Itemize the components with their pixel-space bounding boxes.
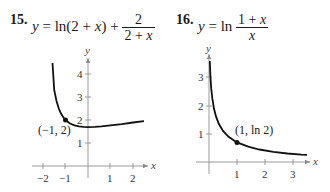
x-tick-label: 1 bbox=[107, 172, 113, 184]
y-tick-label: 3 bbox=[77, 91, 83, 103]
point-label: (1, ln 2) bbox=[235, 123, 273, 137]
x-tick-label: 1 bbox=[234, 168, 240, 180]
point-marker bbox=[235, 140, 240, 145]
y-tick-label: 4 bbox=[77, 68, 83, 80]
point-marker bbox=[63, 118, 68, 123]
y-tick-label: 2 bbox=[198, 100, 204, 112]
x-tick-label: −1 bbox=[59, 172, 71, 184]
chart-16: x y 1 2 3 1 2 3 (1, ln 2) bbox=[196, 42, 318, 180]
y-axis-label: y bbox=[205, 42, 211, 54]
graphs: x y −2 −1 1 2 1 2 3 4 (−1, 2) x y bbox=[0, 0, 330, 192]
y-tick-label: 2 bbox=[77, 114, 83, 126]
curve-15 bbox=[53, 63, 145, 127]
x-axis-label: x bbox=[150, 159, 156, 171]
curve-16 bbox=[210, 61, 307, 155]
x-tick-label: 2 bbox=[262, 168, 268, 180]
y-tick-label: 1 bbox=[198, 128, 204, 140]
point-label: (−1, 2) bbox=[38, 123, 71, 137]
x-tick-label: 2 bbox=[130, 172, 136, 184]
x-tick-label: −2 bbox=[37, 172, 49, 184]
chart-15: x y −2 −1 1 2 1 2 3 4 (−1, 2) bbox=[32, 44, 156, 184]
x-tick-label: 3 bbox=[290, 168, 296, 180]
x-axis-label: x bbox=[312, 155, 318, 167]
y-tick-label: 3 bbox=[198, 71, 204, 83]
y-tick-label: 1 bbox=[77, 137, 83, 149]
y-axis-label: y bbox=[84, 44, 90, 56]
